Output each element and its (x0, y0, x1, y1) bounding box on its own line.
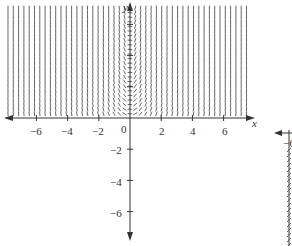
x-axis-label: x (252, 118, 257, 129)
y-axis-label: y (123, 2, 128, 13)
y-tick-label: −6 (110, 208, 122, 219)
x-tick-label: 6 (222, 126, 228, 137)
x-tick-label: 0 (121, 124, 127, 135)
slope-segments (8, 6, 247, 116)
x-tick-label: 2 (159, 126, 165, 137)
y-tick-label: −4 (110, 177, 122, 188)
x-tick-label: 4 (190, 126, 196, 137)
x-tick-label: −6 (30, 126, 42, 137)
slope-field-plot (0, 0, 292, 246)
y-tick-label: −2 (110, 145, 122, 156)
partial-plot-arrow-icon (274, 130, 282, 136)
x-tick-label: −4 (61, 126, 73, 137)
x-tick-label: −2 (92, 126, 104, 137)
partial-plot-label: −6 (283, 138, 292, 149)
y-axis-down-arrow-icon (127, 232, 133, 241)
